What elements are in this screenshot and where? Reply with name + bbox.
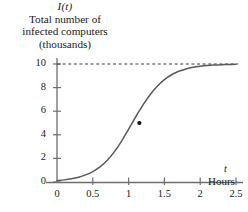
x-tick-label: 1.5 <box>151 188 177 199</box>
y-tick-label: 10 <box>24 57 46 68</box>
x-tick-label: 2.5 <box>223 188 248 199</box>
logistic-curve <box>57 64 236 180</box>
y-tick-label: 2 <box>24 151 46 162</box>
x-tick-label: 0.5 <box>80 188 106 199</box>
chart-title-variable: I(t) <box>0 0 130 13</box>
axes-group <box>46 58 243 183</box>
y-tick-label: 6 <box>24 104 46 115</box>
y-tick-label: 4 <box>24 128 46 139</box>
chart-title-line-2: infected computers <box>0 25 130 38</box>
chart-title-line-1: Total number of <box>0 13 130 26</box>
marked-data-point <box>137 121 141 125</box>
chart-figure: I(t) Total number of infected computers … <box>0 0 248 212</box>
x-tick-label: 0 <box>44 188 70 199</box>
x-axis-variable-label: t <box>224 163 227 174</box>
x-tick-label: 2 <box>187 188 213 199</box>
y-tick-label: 0 <box>24 175 46 186</box>
chart-title-line-3: (thousands) <box>0 38 130 51</box>
x-tick-label: 1 <box>116 188 142 199</box>
x-axis-unit-label: Hours <box>208 175 235 187</box>
y-tick-label: 8 <box>24 81 46 92</box>
chart-title-block: I(t) Total number of infected computers … <box>0 0 130 50</box>
